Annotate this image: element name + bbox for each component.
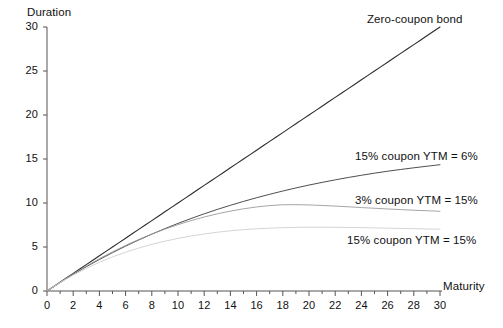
x-tick-label: 18: [273, 299, 293, 311]
x-tick-label: 8: [142, 299, 162, 311]
y-tick-label: 30: [14, 20, 38, 32]
y-tick-label: 5: [14, 240, 38, 252]
y-tick-label: 25: [14, 64, 38, 76]
series-label-coupon3-ytm15: 3% coupon YTM = 15%: [355, 194, 478, 206]
x-tick-label: 6: [116, 299, 136, 311]
y-tick-label: 10: [14, 196, 38, 208]
x-tick-label: 10: [168, 299, 188, 311]
x-tick-label: 2: [63, 299, 83, 311]
x-tick-label: 0: [37, 299, 57, 311]
series-label-coupon15-ytm15: 15% coupon YTM = 15%: [347, 234, 476, 246]
x-tick-label: 22: [325, 299, 345, 311]
duration-vs-maturity-chart: Duration Maturity 0510152025300246810121…: [0, 0, 503, 328]
y-tick-label: 0: [14, 284, 38, 296]
x-tick-label: 26: [378, 299, 398, 311]
plot-area: [0, 0, 503, 328]
x-tick-label: 14: [220, 299, 240, 311]
y-tick-label: 15: [14, 152, 38, 164]
x-tick-label: 20: [299, 299, 319, 311]
x-tick-label: 4: [89, 299, 109, 311]
x-tick-label: 30: [430, 299, 450, 311]
x-tick-label: 12: [194, 299, 214, 311]
y-tick-label: 20: [14, 108, 38, 120]
x-tick-label: 16: [247, 299, 267, 311]
x-tick-label: 28: [404, 299, 424, 311]
series-line-coupon3-ytm15: [47, 205, 440, 291]
series-label-zero-coupon: Zero-coupon bond: [367, 13, 463, 25]
series-label-coupon15-ytm6: 15% coupon YTM = 6%: [355, 150, 478, 162]
x-tick-label: 24: [351, 299, 371, 311]
